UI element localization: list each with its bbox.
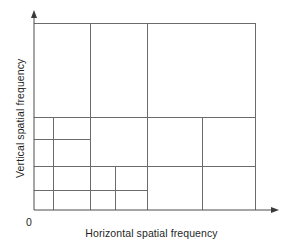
y-axis-arrow-icon xyxy=(31,10,37,18)
origin-tick-label: 0 xyxy=(26,216,32,228)
x-axis-arrow-icon xyxy=(271,207,279,213)
y-axis-label: Vertical spatial frequency xyxy=(15,18,26,218)
subband-partition-plot xyxy=(0,0,285,250)
partition-lines-group xyxy=(34,23,255,210)
spatial-frequency-figure: Horizontal spatial frequency Vertical sp… xyxy=(0,0,285,250)
x-axis-label: Horizontal spatial frequency xyxy=(0,228,285,239)
